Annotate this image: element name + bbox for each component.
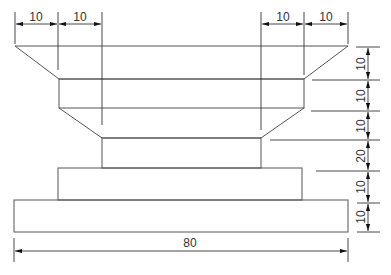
- dim-top-1: 10: [29, 10, 43, 24]
- dim-right-2: 10: [354, 89, 368, 103]
- middle-block: [58, 168, 302, 200]
- right-dimensions: 10 10 10 20 10 10: [354, 48, 368, 231]
- dim-right-4: 20: [354, 149, 368, 163]
- dim-right-6: 10: [354, 210, 368, 224]
- neck: [102, 138, 261, 168]
- dim-right-5: 10: [354, 180, 368, 194]
- upper-band: [59, 79, 304, 108]
- dim-top-3: 10: [276, 10, 290, 24]
- dim-top-2: 10: [73, 10, 87, 24]
- technical-drawing: 10 10 10 10 10 10 10 20 10 10 80: [0, 0, 391, 275]
- taper-outline: [59, 108, 304, 138]
- top-flange-outline: [15, 46, 348, 79]
- bottom-dimension: 80: [14, 236, 348, 262]
- right-extension-lines: [270, 47, 380, 232]
- dim-right-3: 10: [354, 119, 368, 133]
- dim-overall-width: 80: [183, 236, 197, 250]
- dim-right-1: 10: [354, 57, 368, 71]
- dim-top-4: 10: [319, 10, 333, 24]
- base-block: [14, 200, 348, 232]
- part-outline: [14, 46, 348, 232]
- top-dimensions: 10 10 10 10: [16, 10, 347, 24]
